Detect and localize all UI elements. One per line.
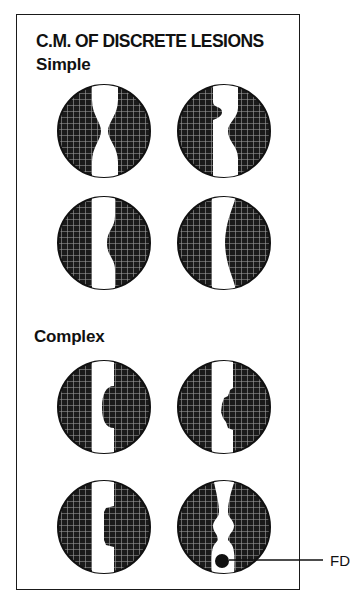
fd-annotation-label: FD <box>330 552 350 569</box>
diagram-complex-rounded-mass <box>58 356 150 458</box>
diagram-simple-eccentric-stenosis <box>178 80 270 182</box>
diagram-simple-symmetric-stenosis <box>58 80 150 182</box>
diagram-complex-filling-defect <box>178 476 270 578</box>
diagram-complex-irregular-mass <box>178 356 270 458</box>
lesion-diagrams <box>0 0 364 605</box>
filling-defect <box>215 554 229 568</box>
diagram-simple-smooth-bulge <box>58 192 150 294</box>
diagram-complex-shelf-lesion <box>58 476 150 578</box>
diagram-simple-tapered-wall <box>178 192 270 294</box>
